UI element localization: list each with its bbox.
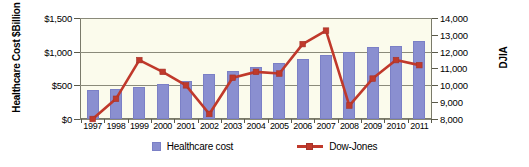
- chart-legend: Healthcare cost Dow-Jones: [0, 136, 529, 156]
- left-tick-label-0: $0: [0, 114, 72, 125]
- dow-jones-marker-1999: [137, 57, 143, 63]
- x-tick-label-2009: 2009: [361, 121, 384, 131]
- dow-jones-marker-2011: [417, 62, 423, 68]
- right-tickmark-8000: [432, 119, 438, 120]
- left-tickmark-1000: [74, 52, 80, 53]
- legend-swatch-line-icon: [297, 142, 323, 151]
- dow-jones-marker-2010: [393, 57, 399, 63]
- x-tick-label-2006: 2006: [291, 121, 314, 131]
- legend-swatch-square-icon: [152, 142, 161, 151]
- dow-jones-marker-2003: [230, 75, 236, 81]
- x-tick-label-1997: 1997: [81, 121, 104, 131]
- x-tick-label-2007: 2007: [314, 121, 337, 131]
- x-tick-label-2005: 2005: [268, 121, 291, 131]
- left-tick-label-1000: $1,000: [0, 47, 72, 58]
- right-tickmark-11000: [432, 68, 438, 69]
- dow-jones-marker-2001: [183, 83, 189, 89]
- right-tick-label-8000: 8,000: [440, 114, 494, 125]
- right-tick-label-14000: 14,000: [440, 13, 494, 24]
- left-tickmark-500: [74, 85, 80, 86]
- x-tick-label-2008: 2008: [338, 121, 361, 131]
- right-tickmark-9000: [432, 102, 438, 103]
- left-tick-label-1500: $1,500: [0, 13, 72, 24]
- x-tick-label-2001: 2001: [174, 121, 197, 131]
- right-tickmark-10000: [432, 85, 438, 86]
- dow-jones-marker-2009: [370, 76, 376, 82]
- legend-label-healthcare-cost: Healthcare cost: [167, 141, 233, 152]
- x-tick-label-2004: 2004: [244, 121, 267, 131]
- dow-jones-marker-1998: [113, 96, 119, 102]
- right-tickmark-14000: [432, 18, 438, 19]
- legend-item-dow-jones[interactable]: Dow-Jones: [297, 141, 377, 152]
- dow-jones-marker-2008: [347, 103, 353, 109]
- legend-label-dow-jones: Dow-Jones: [329, 141, 377, 152]
- dow-jones-marker-1997: [90, 116, 96, 122]
- legend-item-healthcare-cost[interactable]: Healthcare cost: [152, 141, 233, 152]
- x-tickmark-15: [431, 119, 432, 123]
- left-tickmark-1500: [74, 18, 80, 19]
- x-tick-label-1999: 1999: [128, 121, 151, 131]
- x-tick-label-2002: 2002: [198, 121, 221, 131]
- dow-jones-line-series: [81, 18, 431, 119]
- x-tick-label-1998: 1998: [104, 121, 127, 131]
- right-tick-label-13000: 13,000: [440, 30, 494, 41]
- right-tick-label-12000: 12,000: [440, 47, 494, 58]
- x-tick-label-2011: 2011: [408, 121, 431, 131]
- right-axis-title: DJIA: [498, 23, 509, 93]
- gridline-0: [80, 119, 432, 120]
- dow-jones-marker-2005: [277, 71, 283, 77]
- chart-container: Healthcare Cost $Billion DJIA $1,500 $1,…: [0, 0, 529, 167]
- dow-jones-marker-2000: [160, 69, 166, 75]
- dow-jones-marker-2004: [253, 69, 259, 75]
- x-tick-label-2003: 2003: [221, 121, 244, 131]
- dow-jones-marker-2002: [207, 111, 213, 117]
- dow-jones-marker-2006: [300, 41, 306, 47]
- right-tick-label-11000: 11,000: [440, 63, 494, 74]
- left-tick-label-500: $500: [0, 80, 72, 91]
- right-tickmark-13000: [432, 35, 438, 36]
- dow-jones-marker-2007: [323, 28, 329, 34]
- x-tick-label-2010: 2010: [384, 121, 407, 131]
- right-tick-label-9000: 9,000: [440, 97, 494, 108]
- right-tickmark-12000: [432, 52, 438, 53]
- left-tickmark-0: [74, 119, 80, 120]
- x-tick-label-2000: 2000: [151, 121, 174, 131]
- right-tick-label-10000: 10,000: [440, 80, 494, 91]
